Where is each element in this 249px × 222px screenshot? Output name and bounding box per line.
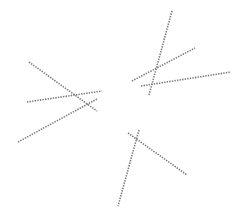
background	[0, 0, 249, 222]
line-diagram-canvas	[0, 0, 249, 222]
